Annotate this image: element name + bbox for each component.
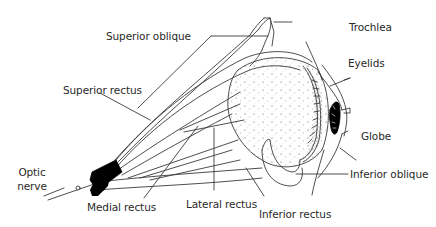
globe-shape <box>228 58 329 167</box>
label-optic-nerve-line2: nerve <box>14 180 50 192</box>
label-medial-rectus: Medial rectus <box>87 201 156 213</box>
label-inferior-oblique: Inferior oblique <box>350 168 428 180</box>
label-superior-oblique: Superior oblique <box>106 30 191 42</box>
diagram-drawing <box>0 0 436 227</box>
label-eyelids: Eyelids <box>348 57 385 69</box>
leader-globe <box>340 148 356 160</box>
label-optic-nerve: Optic nerve <box>14 166 50 192</box>
label-optic-nerve-line1: Optic <box>14 166 50 178</box>
leader-medial-rectus <box>144 126 198 198</box>
leader-eyelids <box>330 78 350 86</box>
label-trochlea: Trochlea <box>349 21 392 33</box>
eye-muscles-diagram: Superior oblique Trochlea Superior rectu… <box>0 0 436 227</box>
leader-inferior-rectus <box>246 168 264 196</box>
label-superior-rectus: Superior rectus <box>63 84 142 96</box>
label-lateral-rectus: Lateral rectus <box>186 198 257 210</box>
pupil-shape <box>330 102 340 134</box>
label-inferior-rectus: Inferior rectus <box>259 208 331 220</box>
rectus-muscles-fan <box>115 92 244 180</box>
label-globe: Globe <box>361 130 391 142</box>
leader-superior-rectus <box>100 93 150 120</box>
